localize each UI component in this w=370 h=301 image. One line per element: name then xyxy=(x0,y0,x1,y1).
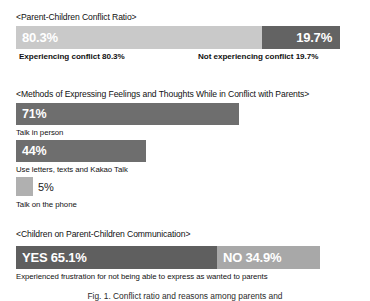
bar-caption-talk-on-the-phone: Talk on the phone xyxy=(16,200,77,209)
bar-segment-label-not-experiencing-conflict: 19.7% xyxy=(296,30,332,45)
bar-segment-label-experiencing-conflict: 80.3% xyxy=(22,30,58,45)
figure-caption: Fig. 1. Conflict ratio and reasons among… xyxy=(0,291,370,301)
bar-value-label-talk-in-person: 71% xyxy=(22,107,46,121)
stacked-bar-communication: YES 65.1% NO 34.9% xyxy=(16,246,320,269)
bar-caption-not-experiencing-conflict: Not experiencing conflict 19.7% xyxy=(198,52,318,61)
bar-caption-talk-in-person: Talk in person xyxy=(16,128,63,137)
bar-value-label-talk-on-the-phone: 5% xyxy=(38,181,54,193)
bar-segment-label-yes: YES 65.1% xyxy=(22,250,87,265)
bar-caption-communication: Experienced frustration for not being ab… xyxy=(16,272,268,281)
bar-fill-use-letters-texts-kakao-talk: 44% xyxy=(16,140,146,162)
bar-caption-use-letters-texts-kakao-talk: Use letters, texts and Kakao Talk xyxy=(16,165,128,174)
bar-value-label-use-letters-texts-kakao-talk: 44% xyxy=(22,144,46,158)
stacked-bar-conflict-ratio: 80.3% 19.7% xyxy=(16,26,340,49)
bar-segment-label-no: NO 34.9% xyxy=(223,250,281,265)
bar-segment-not-experiencing-conflict: 19.7% xyxy=(262,26,340,49)
bar-fill-talk-in-person: 71% xyxy=(16,103,239,125)
section-header-expression-methods: <Methods of Expressing Feelings and Thou… xyxy=(16,89,309,99)
section-header-communication: <Children on Parent-Children Communicati… xyxy=(16,229,190,239)
bar-segment-yes: YES 65.1% xyxy=(16,246,217,269)
bar-caption-experiencing-conflict: Experiencing conflict 80.3% xyxy=(19,52,125,61)
bar-fill-talk-on-the-phone: 5% xyxy=(16,177,33,196)
bar-talk-on-the-phone: 5% xyxy=(16,177,33,196)
section-header-conflict-ratio: <Parent-Children Conflict Ratio> xyxy=(16,12,137,22)
bar-segment-experiencing-conflict: 80.3% xyxy=(16,26,262,49)
bar-use-letters-texts-kakao-talk: 44% xyxy=(16,140,146,162)
bar-segment-no: NO 34.9% xyxy=(217,246,320,269)
bar-talk-in-person: 71% xyxy=(16,103,239,125)
